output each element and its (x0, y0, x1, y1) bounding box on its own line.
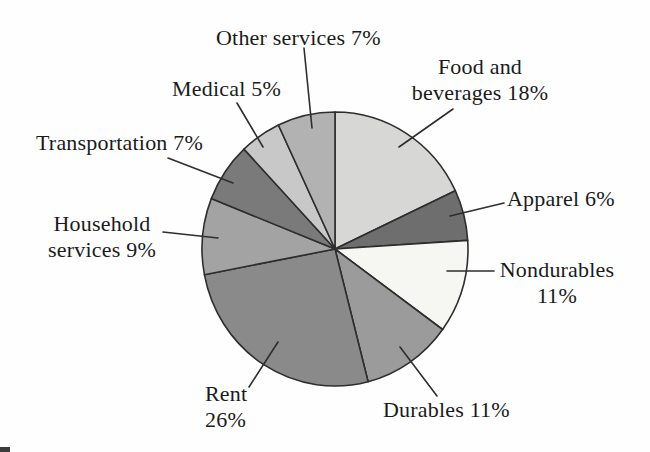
leader-line-medical (237, 103, 263, 147)
slice-label-household-services: Household services 9% (40, 211, 164, 263)
slice-label-nondurables: Nondurables 11% (496, 257, 618, 309)
slice-label-other-services: Other services 7% (216, 25, 381, 51)
leader-line-transportation (168, 158, 233, 183)
pie-chart-figure: Other services 7% Food and beverages 18%… (0, 0, 650, 452)
slice-label-medical: Medical 5% (172, 76, 281, 102)
slice-label-transportation: Transportation 7% (36, 130, 203, 156)
slice-label-durables: Durables 11% (383, 397, 510, 423)
slice-label-rent: Rent 26% (205, 381, 247, 433)
pie-slices-group (202, 112, 468, 386)
slice-label-apparel: Apparel 6% (507, 186, 615, 212)
scan-artifact-mark (0, 447, 10, 452)
slice-label-food-and-beverages: Food and beverages 18% (404, 54, 556, 106)
leader-line-food-and-beverages (399, 109, 453, 147)
